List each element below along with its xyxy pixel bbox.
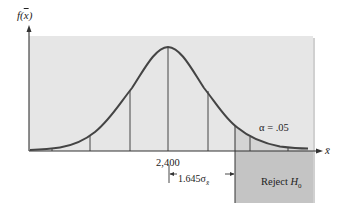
plot-panel [29, 36, 313, 151]
y-axis-arrow-icon [27, 25, 32, 32]
alpha-label: α = .05 [259, 122, 289, 133]
mean-label: 2,400 [156, 157, 180, 168]
hypothesis-test-diagram: f(x) x̄ 2,400 1.645σx̄ α = .05 Reject H0 [0, 0, 348, 214]
reject-h0-label: Reject H0 [261, 176, 302, 190]
arrowhead-right-icon [230, 172, 235, 176]
panel-shadow [313, 38, 315, 203]
y-axis-label: f(x) [17, 9, 32, 21]
arrowhead-left-icon [170, 172, 175, 176]
x-axis-arrow-icon [316, 149, 323, 154]
x-axis-label: x̄ [325, 144, 330, 156]
critical-distance-label: 1.645σx̄ [178, 173, 209, 187]
